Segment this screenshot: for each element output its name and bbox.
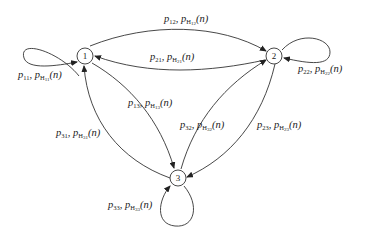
node-1-label: 1	[77, 48, 93, 64]
label-p33: p33, pH33(n)	[108, 200, 152, 212]
label-p31: p31, pH31(n)	[56, 128, 100, 140]
label-p23: p23, pH23(n)	[257, 120, 301, 132]
label-p12: p12, pH12(n)	[164, 14, 208, 26]
edge-3-2	[181, 60, 266, 169]
label-p32: p32, pH32(n)	[180, 120, 224, 132]
label-p11: p11, pH11(n)	[18, 70, 62, 82]
label-p22: p22, pH22(n)	[298, 64, 342, 76]
edge-1-2	[90, 29, 266, 51]
edge-2-2	[282, 38, 330, 63]
label-p13: p13, pH13(n)	[128, 98, 172, 110]
label-p21: p21, pH21(n)	[150, 52, 194, 64]
node-2-label: 2	[266, 48, 282, 64]
edge-3-3	[160, 186, 193, 226]
node-3-label: 3	[170, 170, 186, 186]
edge-3-1	[84, 66, 170, 178]
state-graph	[0, 0, 366, 235]
edge-1-3	[92, 63, 174, 168]
